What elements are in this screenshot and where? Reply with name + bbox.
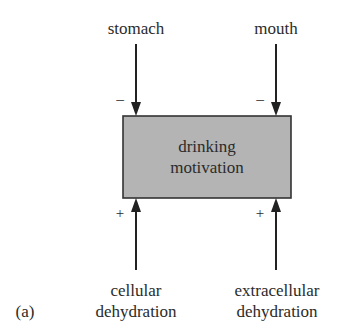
mouth-sign-minus: − [252,90,268,111]
box-line-1: drinking [178,136,236,157]
cellular-dehydration-arrow [131,198,141,270]
cellular-sign-plus: + [112,203,128,224]
cellular-dehydration-label: cellular dehydration [86,280,186,322]
cellular-line-1: cellular [86,280,186,301]
extracellular-line-1: extracellular [221,280,333,301]
extracellular-dehydration-label: extracellular dehydration [221,280,333,322]
mouth-arrow [271,44,281,116]
mouth-label: mouth [240,18,312,39]
extracellular-line-2: dehydration [221,301,333,322]
box-line-2: motivation [170,157,244,178]
panel-label: (a) [10,301,40,322]
stomach-sign-minus: − [112,90,128,111]
cellular-line-2: dehydration [86,301,186,322]
stomach-label: stomach [96,18,176,39]
drinking-motivation-diagram: stomach mouth − − drinking motivation + … [0,0,350,334]
stomach-arrow [131,44,141,116]
drinking-motivation-label: drinking motivation [123,116,291,198]
extracellular-sign-plus: + [252,203,268,224]
extracellular-dehydration-arrow [271,198,281,270]
